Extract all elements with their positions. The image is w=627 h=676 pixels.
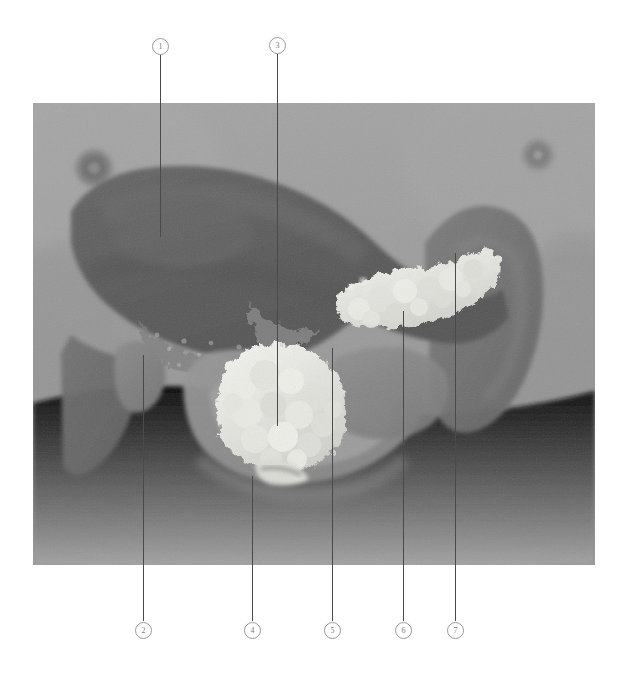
callout-marker-1[interactable]: 1 (152, 38, 169, 55)
leader-line-1 (160, 55, 161, 237)
callout-marker-5[interactable]: 5 (324, 622, 341, 639)
film-grain (33, 103, 595, 565)
leader-line-6 (403, 311, 404, 621)
callout-marker-4[interactable]: 4 (244, 622, 261, 639)
callout-marker-2[interactable]: 2 (135, 622, 152, 639)
anatomy-rendering (33, 103, 595, 565)
leader-line-2 (143, 355, 144, 621)
callout-marker-7[interactable]: 7 (447, 622, 464, 639)
leader-line-3 (277, 54, 278, 426)
leader-line-4 (252, 476, 253, 621)
figure-root: 1 3 2 4 5 6 7 (0, 0, 627, 676)
callout-marker-3[interactable]: 3 (269, 37, 286, 54)
callout-marker-6[interactable]: 6 (395, 622, 412, 639)
leader-line-7 (455, 253, 456, 621)
anatomical-image-plate (33, 103, 595, 565)
leader-line-5 (332, 348, 333, 621)
